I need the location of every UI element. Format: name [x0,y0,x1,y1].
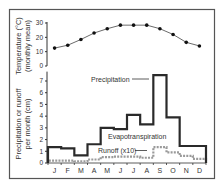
precip-axis-title-1: Precipitation or runoff [14,88,23,160]
climate-chart: Temperature (°C) (monthly mean) Precipit… [0,0,218,188]
month-label: J [119,167,123,174]
month-label: F [66,167,70,174]
runoff-label: Runoff (x10) [98,147,136,155]
temperature-point [132,23,136,27]
temperature-point [145,23,149,27]
temperature-point [198,44,202,48]
precip-tick-label: 2 [39,136,43,143]
precipitation-label: Precipitation [91,76,130,84]
month-label: M [104,167,110,174]
temperature-point [92,31,96,35]
temp-axis-title-2: (monthly mean) [23,19,32,72]
temp-axis-title-1: Temperature (°C) [14,17,23,75]
month-label: O [170,167,176,174]
precip-tick-label: 7 [39,77,43,84]
month-label: S [158,167,163,174]
precip-axis-title-2: per month (cm) [23,98,32,149]
month-label: A [92,167,97,174]
temperature-point [79,38,83,42]
temp-tick-label: 20 [36,34,44,41]
temperature-point [171,33,175,37]
month-label: J [53,167,57,174]
precip-tick-label: 0 [39,159,43,166]
precip-tick-label: 3 [39,124,43,131]
temperature-point [53,46,57,50]
precip-tick-label: 4 [39,112,43,119]
precip-tick-label: 6 [39,89,43,96]
precip-tick-label: 5 [39,101,43,108]
temperature-point [119,23,123,27]
temp-tick-label: 30 [36,19,44,26]
month-label: A [144,167,149,174]
temp-tick-label: 0 [39,62,43,69]
temperature-point [66,43,70,47]
temperature-point [158,27,162,31]
month-label: M [78,167,84,174]
precip-tick-label: 1 [39,148,43,155]
evapotranspiration-label: Evapotranspiration [108,133,166,141]
month-label: D [197,167,202,174]
temp-tick-label: 10 [36,48,44,55]
month-label: N [184,167,189,174]
temperature-point [105,27,109,31]
temperature-point [184,41,188,45]
month-label: J [132,167,136,174]
